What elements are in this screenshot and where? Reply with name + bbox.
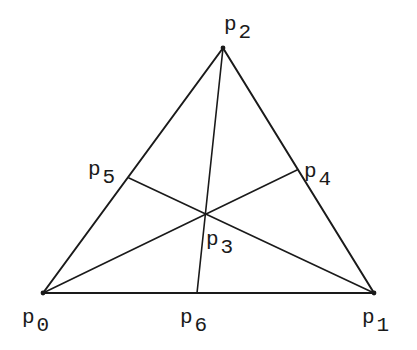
label-p3: p3 [206,228,233,259]
label-p5: p5 [88,158,115,189]
label-p2: p2 [224,13,251,44]
vertex-dot-p1 [372,291,377,296]
triangle-cevian-diagram: p0p1p2p3p4p5p6 [0,0,417,350]
vertex-dot-p0 [41,291,46,296]
cevian-p0-p4 [43,170,297,293]
cevian-p2-p6 [197,48,223,293]
point-labels: p0p1p2p3p4p5p6 [22,13,389,337]
label-p0: p0 [22,306,49,337]
label-p6: p6 [180,306,207,337]
label-p1: p1 [362,306,389,337]
edge-p1-p2 [223,48,374,293]
vertex-dot-p2 [221,46,226,51]
cevian-p1-p5 [129,178,374,293]
edge-p2-p0 [43,48,223,293]
